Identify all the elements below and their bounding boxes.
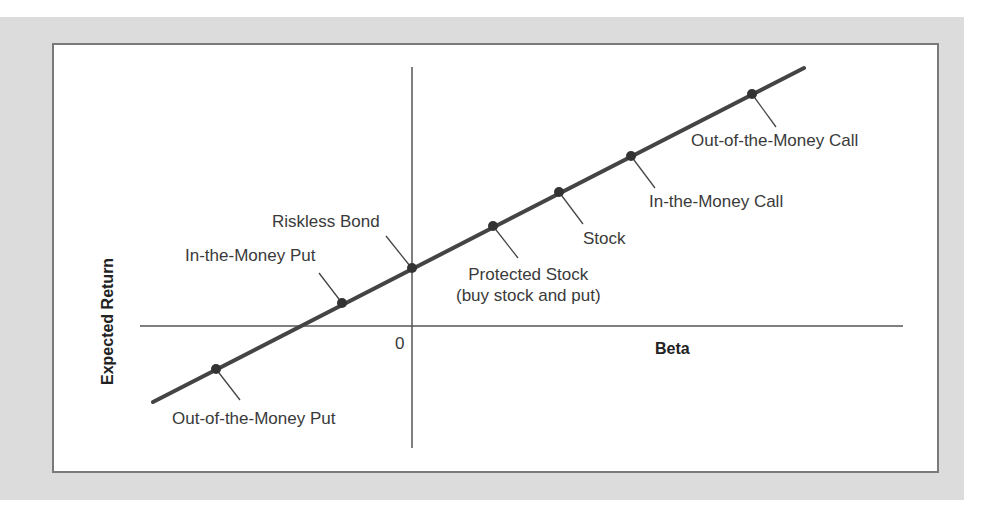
security-market-line-chart xyxy=(0,0,997,506)
label-stock: Stock xyxy=(583,229,626,249)
point-itm-call xyxy=(626,151,636,161)
point-riskless-bond xyxy=(407,263,417,273)
label-protected-stock-line1: Protected Stock xyxy=(456,264,601,285)
point-otm-put xyxy=(211,364,221,374)
y-axis-title: Expected Return xyxy=(99,258,117,385)
label-riskless-bond: Riskless Bond xyxy=(272,212,380,232)
x-axis-title: Beta xyxy=(655,340,690,358)
point-itm-put xyxy=(337,298,347,308)
leader-otm-call xyxy=(752,94,776,127)
label-itm-call: In-the-Money Call xyxy=(649,192,783,212)
leader-itm-put xyxy=(319,273,342,303)
label-otm-put: Out-of-the-Money Put xyxy=(172,409,335,429)
market-line xyxy=(153,68,804,402)
origin-label: 0 xyxy=(395,334,404,354)
label-protected-stock: Protected Stock (buy stock and put) xyxy=(456,264,601,306)
leader-stock xyxy=(559,192,583,224)
point-protected-stock xyxy=(488,221,498,231)
label-itm-put: In-the-Money Put xyxy=(185,246,315,266)
leader-riskless-bond xyxy=(386,236,410,266)
point-otm-call xyxy=(747,89,757,99)
leader-otm-put xyxy=(216,369,240,400)
label-protected-stock-line2: (buy stock and put) xyxy=(456,285,601,306)
point-stock xyxy=(554,187,564,197)
label-otm-call: Out-of-the-Money Call xyxy=(691,131,858,151)
leader-protected-stock xyxy=(493,226,518,258)
leader-itm-call xyxy=(631,156,655,188)
